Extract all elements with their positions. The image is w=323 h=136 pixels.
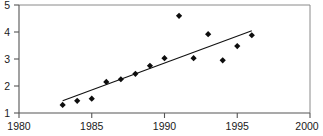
data-point: [176, 13, 182, 19]
x-tick-label-1985: 1985: [80, 120, 104, 132]
data-point: [118, 76, 124, 82]
y-tick-label-2: 2: [4, 80, 10, 92]
scatter-chart: 5 4 3 2 1 1980 1985 1990 1995 2000: [0, 0, 323, 136]
data-points: [60, 13, 255, 108]
data-point: [205, 31, 211, 37]
data-point: [74, 98, 80, 104]
chart-screenshot: - - - - - - - - - - - - - - - 5 4 3 2 1: [0, 0, 323, 136]
data-point: [191, 55, 197, 61]
y-tick-label-1: 1: [4, 107, 10, 119]
y-tick-label-5: 5: [4, 0, 10, 11]
y-tick-label-4: 4: [4, 26, 10, 38]
data-point: [249, 32, 255, 38]
data-point: [132, 71, 138, 77]
data-point: [234, 43, 240, 49]
y-tick-label-3: 3: [4, 53, 10, 65]
x-tick-label-1995: 1995: [226, 120, 250, 132]
data-point: [89, 96, 95, 102]
data-point: [60, 102, 66, 108]
x-tick-label-1980: 1980: [7, 120, 31, 132]
trend-line: [63, 31, 252, 101]
data-point: [220, 57, 226, 63]
y-axis: 5 4 3 2 1: [4, 0, 19, 119]
x-axis: 1980 1985 1990 1995 2000: [7, 113, 319, 132]
data-point: [161, 55, 167, 61]
x-tick-label-2000: 2000: [295, 120, 319, 132]
x-tick-label-1990: 1990: [153, 120, 177, 132]
